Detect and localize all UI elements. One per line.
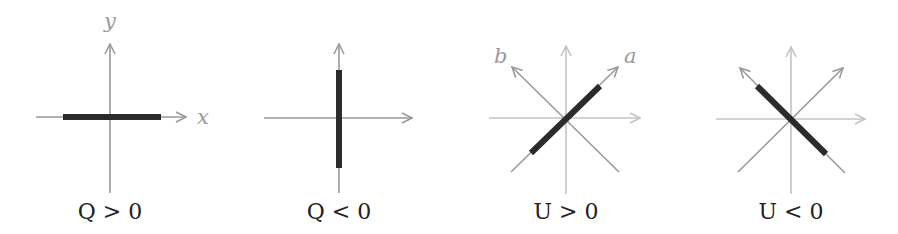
panel-q-negative: Q < 0: [264, 44, 412, 224]
b-axis-label: b: [494, 44, 507, 68]
caption-q-negative: Q < 0: [307, 199, 371, 224]
caption-q-positive: Q > 0: [78, 199, 142, 224]
a-axis-label: a: [624, 44, 637, 68]
x-axis-label: x: [197, 105, 209, 129]
panel-u-negative: U < 0: [716, 47, 865, 224]
panel-u-positive: a b U > 0: [489, 44, 640, 224]
caption-u-negative: U < 0: [759, 199, 824, 224]
stokes-polarization-diagram: y x Q > 0 Q < 0 a b U > 0 U < 0: [0, 0, 898, 234]
panel-q-positive: y x Q > 0: [36, 9, 209, 224]
y-axis-label: y: [103, 9, 117, 33]
caption-u-positive: U > 0: [534, 199, 599, 224]
